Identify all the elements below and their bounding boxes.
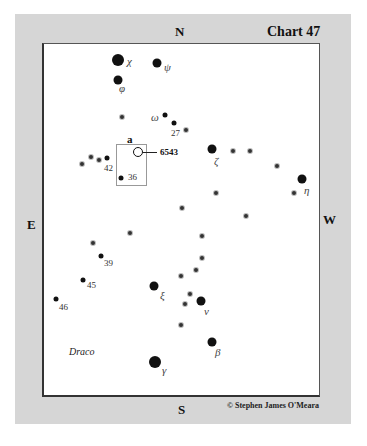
star-27-label: 27: [171, 128, 180, 138]
star-39-icon: [99, 254, 104, 259]
faint-star-icon: [275, 164, 279, 168]
faint-star-icon: [89, 155, 93, 159]
faint-star-icon: [194, 268, 198, 272]
faint-star-icon: [179, 274, 183, 278]
star-gamma-label: γ: [162, 364, 166, 376]
star-field: [42, 43, 320, 397]
star-beta-label: β: [215, 346, 220, 358]
east-label: E: [27, 217, 36, 233]
star-omega-label: ω: [151, 111, 159, 123]
faint-star-icon: [183, 302, 187, 306]
star-36-label: 36: [128, 172, 137, 182]
star-psi-icon: [153, 59, 162, 68]
star-45-label: 45: [87, 280, 96, 290]
faint-star-icon: [200, 234, 204, 238]
faint-star-icon: [97, 158, 101, 162]
star-39-label: 39: [104, 258, 113, 268]
star-nu-label: ν: [204, 305, 209, 317]
faint-star-icon: [248, 149, 252, 153]
star-chi-label: χ: [127, 55, 132, 67]
nebula-marker-icon: [133, 147, 143, 157]
faint-star-icon: [200, 256, 204, 260]
star-zeta-icon: [208, 145, 217, 154]
star-36-icon: [119, 176, 124, 181]
star-eta-label: η: [304, 184, 309, 196]
object-leader-line: [143, 152, 157, 153]
star-chi-icon: [112, 54, 124, 66]
faint-star-icon: [128, 231, 132, 235]
west-label: W: [323, 212, 336, 228]
faint-star-icon: [80, 162, 84, 166]
chart-title: Chart 47: [267, 24, 320, 40]
star-45-icon: [81, 278, 86, 283]
object-label: 6543: [160, 147, 178, 157]
star-psi-label: ψ: [164, 61, 171, 73]
star-zeta-label: ζ: [214, 155, 218, 167]
star-27-icon: [172, 121, 177, 126]
faint-star-icon: [120, 115, 124, 119]
star-46-label: 46: [59, 302, 68, 312]
faint-star-icon: [231, 149, 235, 153]
star-42-icon: [105, 156, 110, 161]
faint-star-icon: [180, 206, 184, 210]
star-phi-label: φ: [119, 82, 125, 94]
copyright-credit: © Stephen James O'Meara: [227, 401, 319, 410]
faint-star-icon: [91, 241, 95, 245]
star-omega-icon: [163, 113, 168, 118]
star-xi-icon: [150, 282, 159, 291]
faint-star-icon: [179, 323, 183, 327]
star-eta-icon: [298, 175, 307, 184]
faint-star-icon: [214, 191, 218, 195]
star-gamma-icon: [149, 356, 161, 368]
star-xi-label: ξ: [160, 289, 165, 301]
star-46-icon: [54, 297, 59, 302]
faint-star-icon: [188, 292, 192, 296]
south-label: S: [178, 402, 185, 418]
constellation-label: Draco: [69, 346, 95, 357]
faint-star-icon: [292, 191, 296, 195]
north-label: N: [175, 24, 184, 40]
faint-star-icon: [184, 128, 188, 132]
star-42-label: 42: [104, 163, 113, 173]
faint-star-icon: [244, 214, 248, 218]
